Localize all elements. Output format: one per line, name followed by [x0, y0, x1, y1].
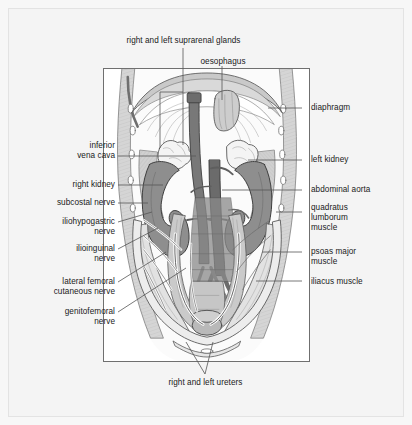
vertebral-column — [191, 198, 235, 281]
label-quadratus-line2: lumborum — [311, 213, 406, 223]
label-oesophagus: oesophagus — [186, 57, 260, 67]
label-subcostal-nerve: subcostal nerve — [13, 198, 115, 208]
illustration-panel — [103, 68, 310, 362]
label-suprarenal-glands: right and left suprarenal glands — [111, 36, 256, 46]
label-left-kidney: left kidney — [311, 155, 401, 165]
label-ilioinguinal-line2: nerve — [13, 254, 115, 264]
label-ilioinguinal-line1: ilioinguinal — [13, 244, 115, 254]
label-genitofemoral-line1: genitofemoral — [13, 307, 115, 317]
label-lateral-femoral-line1: lateral femoral — [9, 277, 115, 287]
anatomy-figure: right and left suprarenal glands oesopha… — [0, 0, 412, 425]
label-abdominal-aorta: abdominal aorta — [311, 185, 406, 195]
label-diaphragm: diaphragm — [311, 103, 401, 113]
label-right-kidney: right kidney — [27, 180, 115, 190]
label-iliohypogastric-line1: iliohypogastric — [13, 217, 115, 227]
label-lateral-femoral-line2: cutaneous nerve — [9, 287, 115, 297]
label-iliacus: iliacus muscle — [311, 277, 406, 287]
label-genitofemoral-line2: nerve — [13, 317, 115, 327]
label-inferior-vena-cava-line2: vena cava — [27, 151, 115, 161]
label-psoas-line2: muscle — [311, 257, 406, 267]
anatomy-illustration — [104, 69, 309, 361]
urethral-opening — [201, 349, 213, 353]
label-quadratus-line1: quadratus — [311, 203, 406, 213]
ivc-cuff — [187, 93, 201, 103]
label-ureters: right and left ureters — [133, 378, 278, 388]
label-psoas-line1: psoas major — [311, 247, 406, 257]
label-iliohypogastric-line2: nerve — [13, 227, 115, 237]
label-inferior-vena-cava-line1: inferior — [27, 141, 115, 151]
label-quadratus-line3: muscle — [311, 223, 406, 233]
